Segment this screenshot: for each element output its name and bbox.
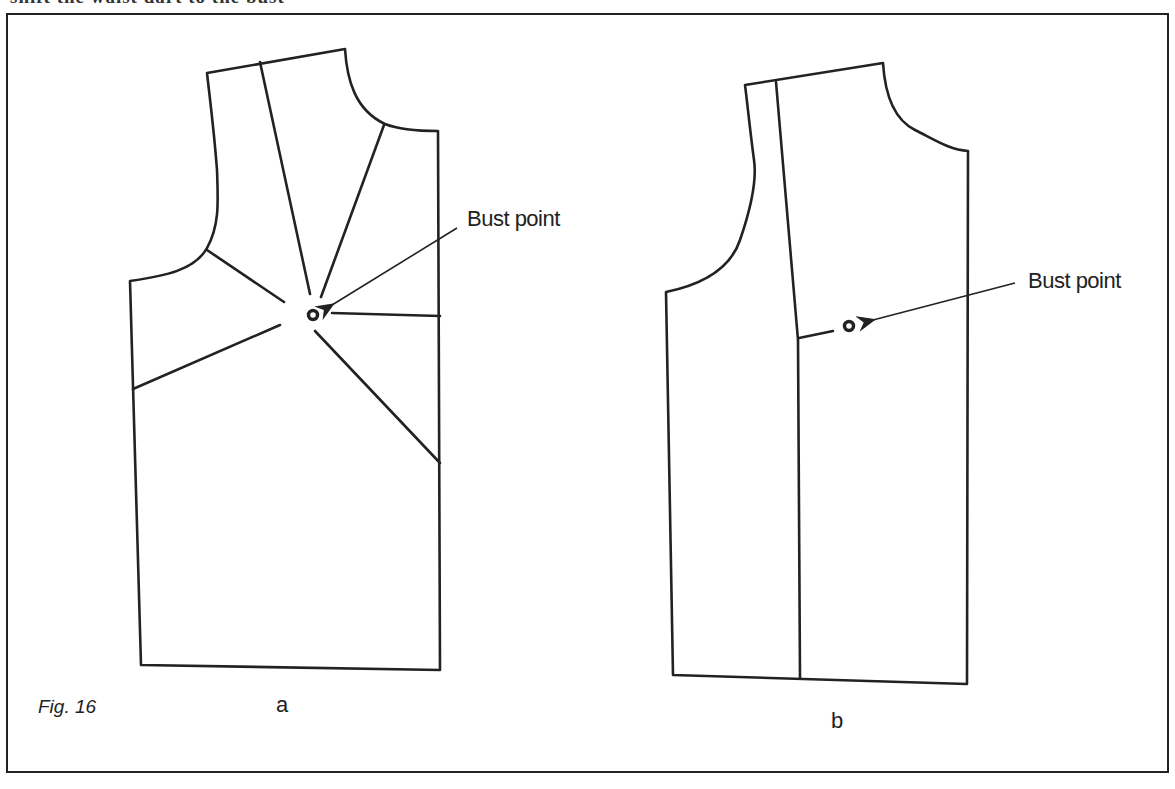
bodice-pattern-a (130, 49, 440, 670)
arrow-b (873, 283, 1015, 320)
bodice-pattern-b (666, 63, 968, 684)
pattern-drawings (0, 0, 1175, 789)
panel-label-b: b (831, 708, 843, 734)
panel-label-a: a (276, 692, 288, 718)
bust-point-b (845, 322, 854, 331)
bust-point-label-b: Bust point (1028, 268, 1121, 294)
figure-caption: Fig. 16 (38, 696, 96, 718)
bust-point-a (309, 311, 318, 320)
bust-point-label-a: Bust point (467, 206, 560, 232)
